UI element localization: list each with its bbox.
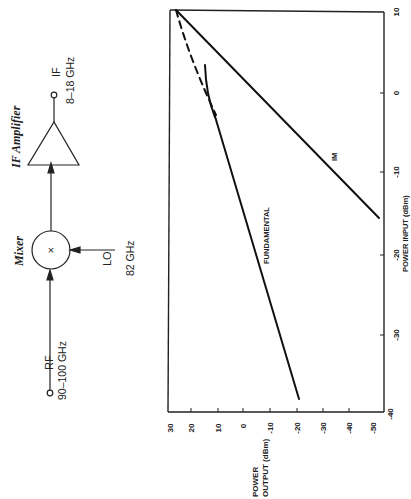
amplifier-triangle-icon <box>28 122 79 165</box>
if-freq-label: 8–18 GHz <box>64 57 76 104</box>
rf-label: RF <box>43 355 55 370</box>
lo-arrow-icon <box>70 247 80 253</box>
rf-freq-label: 90–100 GHz <box>56 341 68 400</box>
series-fundamental-compressed <box>205 65 215 117</box>
svg-text:-20: -20 <box>293 422 302 434</box>
input-axis-tick-labels: 10 0 -10 -20 -30 -40 <box>386 7 401 420</box>
svg-text:-40: -40 <box>345 422 354 434</box>
rf-arrow-icon <box>47 270 53 280</box>
svg-text:-30: -30 <box>392 329 401 341</box>
svg-text:0: 0 <box>239 423 248 428</box>
svg-text:20: 20 <box>187 423 196 432</box>
svg-text:30: 30 <box>166 423 175 432</box>
figure: × RF 90–100 GHz Mixer LO 82 GHz IF Ampli… <box>0 0 411 499</box>
block-diagram <box>28 92 115 396</box>
input-axis-title: POWER INPUT (dBm) <box>401 195 410 272</box>
fundamental-annotation: FUNDAMENTAL <box>262 207 271 264</box>
series-fundamental <box>214 113 299 399</box>
block-diagram-labels: × RF 90–100 GHz Mixer LO 82 GHz IF Ampli… <box>9 57 136 400</box>
output-axis-tick-labels: 30 20 10 0 -10 -20 -30 -40 -50 <box>166 422 378 434</box>
svg-text:POWER: POWER <box>251 467 260 497</box>
if-terminal-icon <box>51 92 57 98</box>
chart: 30 20 10 0 -10 -20 -30 -40 -50 10 0 -10 … <box>166 7 410 497</box>
svg-text:10: 10 <box>214 423 223 432</box>
svg-text:-10: -10 <box>266 422 275 434</box>
svg-text:-20: -20 <box>392 249 401 261</box>
svg-text:OUTPUT (dBm): OUTPUT (dBm) <box>261 438 270 497</box>
lo-label: LO <box>101 251 113 266</box>
svg-text:-50: -50 <box>369 422 378 434</box>
lo-freq-label: 82 GHz <box>124 240 136 276</box>
svg-text:-10: -10 <box>392 166 401 178</box>
mixer-symbol: × <box>48 244 54 256</box>
chart-frame <box>168 10 384 412</box>
chart-series <box>176 10 379 399</box>
svg-text:0: 0 <box>392 90 401 95</box>
output-axis-title: POWER OUTPUT (dBm) <box>251 438 270 497</box>
svg-text:-40: -40 <box>386 408 395 420</box>
svg-text:-30: -30 <box>319 422 328 434</box>
mixer-title: Mixer <box>12 236 26 267</box>
rf-terminal-icon <box>47 390 53 396</box>
amplifier-title: IF Amplifier <box>9 105 23 169</box>
series-im <box>176 10 379 218</box>
svg-text:10: 10 <box>392 7 401 16</box>
im-annotation: IM <box>330 153 339 161</box>
if-label: IF <box>50 67 62 77</box>
